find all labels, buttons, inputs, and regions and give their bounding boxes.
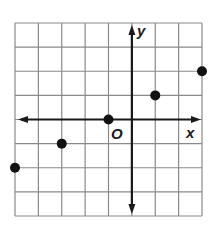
x-axis-right-arrow-icon [191, 116, 201, 123]
data-point [150, 90, 160, 100]
x-axis-label: x [185, 124, 195, 141]
data-point [104, 115, 114, 125]
data-point [10, 163, 20, 173]
y-axis-up-arrow-icon [128, 25, 135, 35]
data-point [197, 66, 207, 76]
data-point [57, 139, 67, 149]
x-axis-left-arrow-icon [18, 116, 28, 123]
origin-label: O [111, 125, 123, 142]
y-axis-label: y [136, 22, 146, 39]
coordinate-plane: y x O [0, 0, 209, 226]
y-axis-down-arrow-icon [128, 204, 135, 214]
